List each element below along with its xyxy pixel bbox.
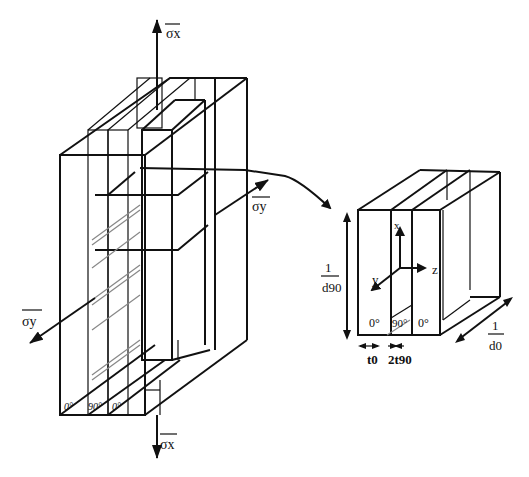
sigma-y-right-label: σy	[252, 199, 267, 214]
left-ply-label-0a: 0°	[64, 401, 73, 412]
x-axis-label: x	[394, 219, 400, 231]
right-ply-label-90: 90°	[392, 317, 407, 329]
right-ply-label-0b: 0°	[418, 316, 429, 330]
t0-label: t0	[367, 352, 378, 367]
sigma-x-bottom-label: σx	[160, 437, 175, 452]
left-ply-label-0b: 0°	[112, 401, 121, 412]
depth-dim-denominator: d0	[489, 338, 502, 353]
depth-dim-numerator: 1	[492, 318, 499, 333]
diagram-svg: 0° 90° 0° σx σx σy σy	[0, 0, 529, 477]
y-axis-label: y	[372, 272, 379, 287]
sigma-y-left-arrow	[30, 298, 95, 343]
t90-label: 2t90	[388, 352, 412, 367]
left-laminate: 0° 90° 0°	[60, 78, 247, 415]
right-ply-label-0a: 0°	[369, 316, 380, 330]
height-dim-denominator: d90	[322, 280, 342, 295]
laminate-diagram: 0° 90° 0° σx σx σy σy	[0, 0, 529, 477]
stress-arrows	[30, 20, 268, 458]
zero-ply-slab	[142, 130, 172, 360]
sigma-y-left-label: σy	[22, 314, 37, 329]
sigma-x-top-label: σx	[166, 26, 181, 41]
representative-element: x z y 0° 90° 0° 1 d90 1 d0 t0 2t90	[321, 170, 513, 367]
height-dim-numerator: 1	[325, 260, 332, 275]
left-ply-label-90: 90°	[88, 401, 102, 412]
z-axis-label: z	[432, 262, 438, 277]
